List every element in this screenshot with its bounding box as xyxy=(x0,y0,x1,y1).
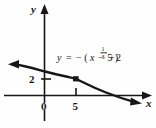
equation-equals: = xyxy=(66,52,72,63)
figure-background xyxy=(0,0,156,128)
equation-plus: + xyxy=(109,52,115,63)
graph-figure: y x 0 5 2 y = − ( x − 5 ) 1 3 + 2 xyxy=(0,0,156,128)
x-tick-label-5: 5 xyxy=(73,100,79,112)
exponent-numerator: 1 xyxy=(102,46,105,52)
y-tick-label-2: 2 xyxy=(29,73,35,85)
equation-base-variable: x xyxy=(89,52,95,63)
equation-lhs: y xyxy=(56,52,62,63)
origin-label: 0 xyxy=(41,100,47,112)
equation-negative-sign: − xyxy=(76,52,82,63)
marked-point-5-2 xyxy=(73,76,79,81)
x-axis-label: x xyxy=(145,97,152,109)
coordinate-plane-svg: y x 0 5 2 y = − ( x − 5 ) 1 3 + 2 xyxy=(0,0,156,128)
equation-constant: 2 xyxy=(116,52,121,63)
y-axis-label: y xyxy=(29,3,36,15)
exponent-denominator: 3 xyxy=(102,54,105,60)
equation-open-paren: ( xyxy=(84,52,88,64)
